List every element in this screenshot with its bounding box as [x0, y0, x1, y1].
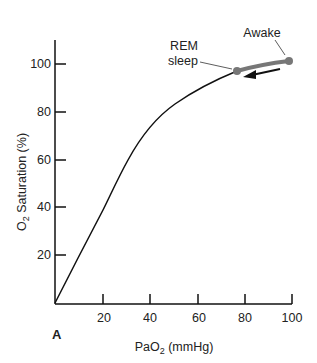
x-tick-100: 100: [282, 311, 303, 325]
y-tick-20: 20: [37, 248, 51, 262]
x-tick-labels: 20 40 60 80 100: [97, 311, 302, 325]
y-tick-40: 40: [37, 200, 51, 214]
x-axis-title: PaO2 (mmHg): [135, 340, 214, 356]
x-tick-80: 80: [238, 311, 252, 325]
awake-leader-line: [275, 40, 285, 55]
sleep-transition-segment: [237, 61, 289, 71]
y-axis-title: O2 Saturation (%): [15, 133, 31, 231]
rem-sleep-point: [233, 67, 241, 75]
y-tick-100: 100: [30, 57, 51, 71]
x-tick-20: 20: [97, 311, 111, 325]
x-tick-40: 40: [143, 311, 157, 325]
rem-leader-line: [200, 62, 232, 69]
rem-label-line2: sleep: [168, 54, 198, 68]
rem-label-line1: REM: [170, 39, 198, 53]
awake-point: [285, 57, 293, 65]
direction-arrow-icon: [243, 69, 280, 79]
x-ticks: [103, 294, 292, 304]
y-tick-60: 60: [37, 153, 51, 167]
awake-label: Awake: [243, 26, 280, 40]
y-tick-80: 80: [37, 105, 51, 119]
y-ticks: [55, 64, 66, 255]
y-tick-labels: 100 80 60 40 20: [30, 57, 51, 262]
chart: 100 80 60 40 20 20 40 60 80 100 Awake RE…: [0, 0, 317, 363]
dissociation-curve: [55, 71, 237, 303]
panel-label: A: [52, 327, 62, 342]
x-tick-60: 60: [192, 311, 206, 325]
